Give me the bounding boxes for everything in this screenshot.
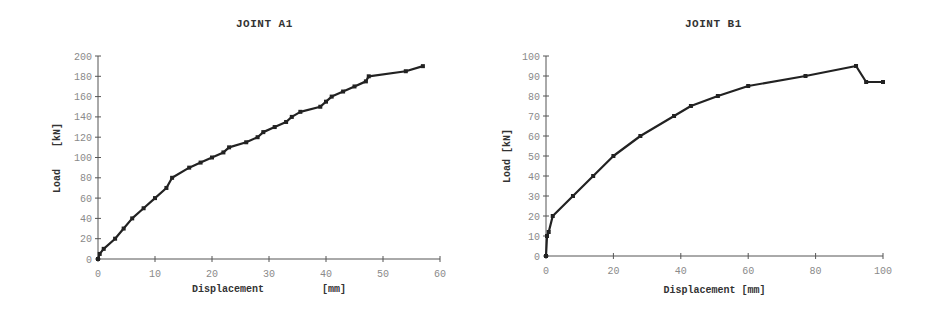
data-point-marker [611, 154, 615, 158]
y-axis-label: Load [kN] [502, 129, 513, 183]
plot-area: 0102030405060708090100020406080100 Displ… [465, 0, 929, 312]
data-point-marker [689, 104, 693, 108]
data-point-marker [102, 247, 106, 251]
axis-labels: Displacement [mm]Load [kN] [502, 129, 766, 296]
data-point-marker [142, 206, 146, 210]
data-point-marker [199, 161, 203, 165]
data-point-marker [113, 237, 117, 241]
y-tick-label: 70 [528, 112, 540, 123]
data-point-marker [672, 114, 676, 118]
x-tick-label: 10 [149, 269, 161, 280]
y-tick-label: 20 [528, 212, 540, 223]
data-point-marker [746, 84, 750, 88]
data-point-marker [164, 186, 168, 190]
data-point-marker [551, 214, 555, 218]
x-tick-label: 100 [874, 266, 892, 277]
data-point-marker [227, 145, 231, 149]
data-series [96, 64, 425, 261]
data-point-marker [864, 80, 868, 84]
y-tick-label: 160 [74, 92, 92, 103]
y-tick-label: 40 [80, 214, 92, 225]
y-tick-label: 40 [528, 172, 540, 183]
data-point-marker [153, 196, 157, 200]
data-point-marker [545, 234, 549, 238]
data-point-marker [256, 135, 260, 139]
y-tick-label: 120 [74, 133, 92, 144]
y-axis-label: Load[kN] [52, 123, 63, 193]
series-line [98, 66, 423, 259]
data-point-marker [421, 64, 425, 68]
y-tick-label: 100 [522, 52, 540, 63]
y-tick-label: 200 [74, 52, 92, 63]
data-point-marker [716, 94, 720, 98]
chart-joint-b1: JOINT B1 0102030405060708090100020406080… [465, 0, 929, 312]
data-point-marker [96, 257, 100, 261]
data-point-marker [881, 80, 885, 84]
data-point-marker [571, 194, 575, 198]
y-tick-label: 20 [80, 234, 92, 245]
x-tick-label: 40 [320, 269, 332, 280]
series-line [546, 66, 883, 256]
data-point-marker [221, 150, 225, 154]
data-point-marker [244, 140, 248, 144]
data-point-marker [364, 79, 368, 83]
y-tick-label: 0 [534, 252, 540, 263]
data-point-marker [98, 252, 102, 256]
plot-area: 0204060801001201401601802000102030405060… [0, 0, 465, 312]
x-tick-label: 20 [206, 269, 218, 280]
data-point-marker [290, 115, 294, 119]
data-point-marker [547, 230, 551, 234]
x-tick-label: 60 [742, 266, 754, 277]
y-tick-label: 140 [74, 112, 92, 123]
y-tick-label: 30 [528, 192, 540, 203]
y-tick-label: 80 [528, 92, 540, 103]
data-point-marker [284, 120, 288, 124]
x-tick-label: 40 [675, 266, 687, 277]
data-point-marker [854, 64, 858, 68]
data-point-marker [544, 254, 548, 258]
x-axis-label: Displacement [192, 284, 264, 295]
data-point-marker [330, 95, 334, 99]
data-point-marker [130, 216, 134, 220]
data-point-marker [404, 69, 408, 73]
data-series [544, 64, 885, 258]
y-tick-label: 50 [528, 152, 540, 163]
data-point-marker [803, 74, 807, 78]
x-tick-label: 80 [810, 266, 822, 277]
x-tick-label: 0 [543, 266, 549, 277]
y-tick-label: 100 [74, 153, 92, 164]
x-axis-label: [mm] [322, 284, 346, 295]
data-point-marker [318, 105, 322, 109]
y-tick-label: 80 [80, 173, 92, 184]
y-tick-label: 10 [528, 232, 540, 243]
y-tick-label: 0 [86, 255, 92, 266]
data-point-marker [591, 174, 595, 178]
y-tick-label: 90 [528, 72, 540, 83]
y-tick-label: 60 [528, 132, 540, 143]
axes: 0204060801001201401601802000102030405060 [74, 52, 446, 281]
data-point-marker [324, 100, 328, 104]
x-axis-label: Displacement [mm] [663, 285, 765, 296]
data-point-marker [170, 176, 174, 180]
data-point-marker [273, 125, 277, 129]
data-point-marker [298, 110, 302, 114]
data-point-marker [638, 134, 642, 138]
y-tick-label: 60 [80, 194, 92, 205]
data-point-marker [367, 74, 371, 78]
x-tick-label: 30 [263, 269, 275, 280]
axes: 0102030405060708090100020406080100 [522, 52, 892, 278]
x-tick-label: 60 [434, 269, 446, 280]
data-point-marker [341, 90, 345, 94]
x-tick-label: 0 [95, 269, 101, 280]
chart-joint-a1: JOINT A1 0204060801001201401601802000102… [0, 0, 465, 312]
x-tick-label: 50 [377, 269, 389, 280]
y-tick-label: 180 [74, 72, 92, 83]
data-point-marker [210, 156, 214, 160]
x-tick-label: 20 [607, 266, 619, 277]
data-point-marker [261, 130, 265, 134]
data-point-marker [187, 166, 191, 170]
data-point-marker [122, 227, 126, 231]
data-point-marker [353, 84, 357, 88]
